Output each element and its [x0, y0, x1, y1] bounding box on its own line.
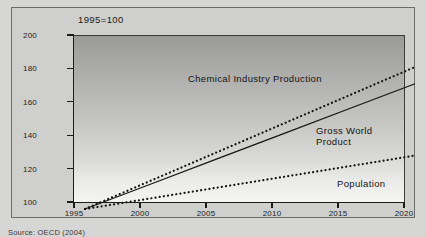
x-tick-label: 1995 — [65, 209, 84, 218]
x-tick — [205, 202, 206, 208]
series-label-gross-world-product: Gross World Product — [316, 125, 372, 147]
y-tick-label: 120 — [23, 164, 37, 173]
y-tick — [67, 101, 74, 102]
chart-title: 1995=100 — [78, 14, 124, 25]
y-tick-label: 200 — [23, 31, 37, 40]
x-tick — [139, 202, 140, 208]
x-tick-label: 2020 — [395, 209, 414, 218]
series-label-population: Population — [337, 178, 385, 189]
x-tick-label: 2005 — [197, 209, 216, 218]
chart-figure: 1995=100 100120140160180200 199520002005… — [11, 7, 415, 218]
x-tick — [403, 202, 404, 208]
y-tick — [67, 168, 74, 169]
y-tick — [67, 34, 74, 35]
y-tick-label: 140 — [23, 131, 37, 140]
x-tick-label: 2000 — [131, 209, 150, 218]
source-caption: Source: OECD (2004) — [8, 228, 85, 237]
x-tick — [271, 202, 272, 208]
x-tick — [337, 202, 338, 208]
y-tick — [67, 135, 74, 136]
y-tick — [67, 68, 74, 69]
x-axis-line — [73, 202, 405, 203]
y-tick-label: 160 — [23, 97, 37, 106]
x-tick — [73, 202, 74, 208]
series-label-chemical-industry-production: Chemical Industry Production — [188, 73, 322, 84]
y-axis-line — [73, 34, 74, 203]
x-tick-label: 2015 — [329, 209, 348, 218]
x-tick-label: 2010 — [263, 209, 282, 218]
y-tick-label: 180 — [23, 64, 37, 73]
y-tick-label: 100 — [23, 198, 37, 207]
